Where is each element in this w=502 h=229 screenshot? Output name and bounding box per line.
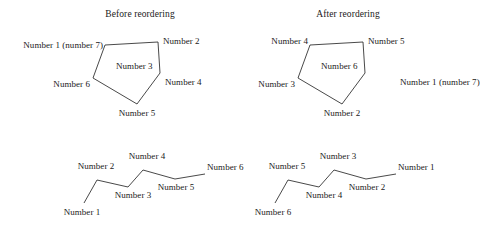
before-pentagon-vertex-label-number-6: Number 6: [53, 79, 90, 89]
after-pentagon-vertex-label-number-4: Number 4: [271, 36, 308, 46]
after-pentagon-vertex-label-number-5: Number 5: [368, 36, 405, 46]
after-polyline-vertex-label-number-6: Number 6: [255, 207, 292, 217]
diagram-strokes: [0, 0, 502, 229]
before-pentagon-vertex-label-number-4: Number 4: [165, 77, 202, 87]
before-polyline-vertex-label-number-2: Number 2: [78, 161, 115, 171]
after-polyline-vertex-label-number-4: Number 4: [306, 190, 343, 200]
before-polyline-vertex-label-number-3: Number 3: [115, 190, 152, 200]
before-polyline-vertex-label-number-1: Number 1: [64, 207, 101, 217]
after-pentagon-vertex-label-number-6: Number 6: [321, 61, 358, 71]
after-polyline-vertex-label-number-2: Number 2: [349, 182, 386, 192]
before-pentagon-outline: [93, 42, 160, 104]
heading-after-reordering: After reordering: [316, 9, 380, 19]
heading-before-reordering: Before reordering: [105, 9, 175, 19]
before-pentagon-vertex-label-number-1: Number 1 (number 7): [23, 40, 103, 50]
after-polyline-vertex-label-number-5: Number 5: [269, 161, 306, 171]
figure-canvas: Before reordering After reordering Numbe…: [0, 0, 502, 229]
after-pentagon-vertex-label-number-2: Number 2: [324, 108, 361, 118]
before-polyline-vertex-label-number-5: Number 5: [158, 182, 195, 192]
after-polyline-vertex-label-number-1: Number 1: [398, 162, 435, 172]
after-pentagon-outline: [298, 42, 365, 104]
after-pentagon-vertex-label-number-3: Number 3: [258, 79, 295, 89]
before-pentagon-vertex-label-number-2: Number 2: [163, 36, 200, 46]
before-polyline-vertex-label-number-4: Number 4: [129, 151, 166, 161]
after-polyline-vertex-label-number-3: Number 3: [320, 151, 357, 161]
after-pentagon-vertex-label-number-1: Number 1 (number 7): [400, 77, 480, 87]
before-pentagon-vertex-label-number-5: Number 5: [119, 108, 156, 118]
before-pentagon-vertex-label-number-3: Number 3: [116, 61, 153, 71]
before-polyline-vertex-label-number-6: Number 6: [207, 162, 244, 172]
